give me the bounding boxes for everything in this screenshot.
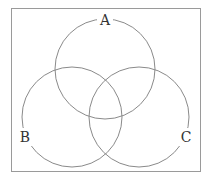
circle-b [22, 67, 122, 167]
label-c: C [181, 129, 192, 145]
frame [12, 9, 201, 172]
circle-c [89, 67, 189, 167]
label-b: B [20, 129, 30, 145]
circle-a [55, 19, 155, 119]
label-a: A [99, 12, 111, 28]
venn-diagram: A B C [0, 0, 206, 178]
